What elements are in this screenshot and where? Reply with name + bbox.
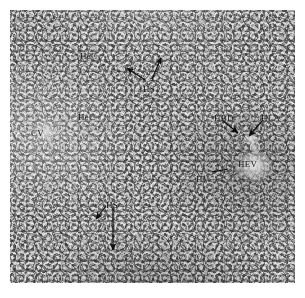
label-cv: CV: [31, 129, 44, 138]
label-hs-lower: HS: [106, 201, 118, 210]
label-hev: HEV: [238, 160, 257, 169]
label-hs-upper: HS: [143, 85, 155, 94]
figure-panel: HeC HS HeC CV HBD HLA HV HEV HS: [0, 0, 305, 298]
artery-lumen: [249, 141, 260, 155]
label-hec-upper: HeC: [80, 52, 97, 61]
label-hec-lower: HeC: [78, 113, 95, 122]
label-hv: HV: [196, 175, 209, 184]
micrograph-image: [10, 10, 295, 283]
label-hbd: HBD: [214, 114, 234, 123]
label-hla: HLA: [261, 114, 280, 123]
